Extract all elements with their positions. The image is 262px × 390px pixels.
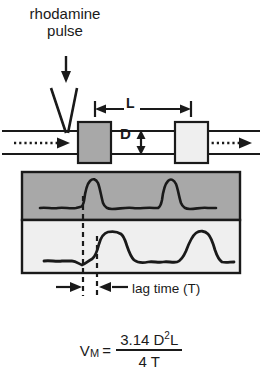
rhodamine-pulse-label: rhodamine pulse <box>16 6 114 40</box>
diameter-dimension-label: D <box>120 126 131 143</box>
dimension-D <box>137 130 146 155</box>
formula-fraction: 3.14 D2L 4 T <box>116 330 182 370</box>
formula-variable-subscript: M <box>90 347 99 359</box>
detection-window-downstream <box>175 122 208 163</box>
flow-arrow-upstream-icon <box>14 138 70 149</box>
velocity-formula: VM = 3.14 D2L 4 T <box>0 330 262 370</box>
lag-time-arrows <box>56 282 128 292</box>
rhodamine-pulse-label-line2: pulse <box>16 23 114 40</box>
trace-panel-downstream <box>22 220 240 273</box>
formula-variable: VM <box>80 342 100 359</box>
dimension-L <box>95 101 191 117</box>
formula-denominator: 4 T <box>134 351 163 370</box>
rhodamine-pulse-label-line1: rhodamine <box>16 6 114 23</box>
lag-time-label: lag time (T) <box>132 281 200 296</box>
formula-numerator-suffix: L <box>170 331 178 348</box>
formula-numerator-prefix: 3.14 D <box>120 331 164 348</box>
formula-variable-symbol: V <box>80 342 90 359</box>
detection-window-upstream <box>78 122 111 163</box>
trace-panel-upstream <box>22 172 240 220</box>
formula-equals: = <box>102 342 111 359</box>
length-dimension-label: L <box>126 96 135 112</box>
pipette-icon <box>51 88 77 133</box>
formula-numerator: 3.14 D2L <box>116 330 182 349</box>
injection-arrow-icon <box>61 56 71 83</box>
